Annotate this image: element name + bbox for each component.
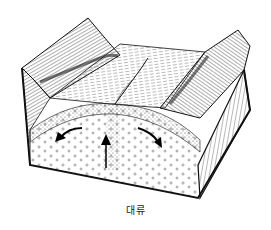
figure-caption: 대류: [0, 202, 271, 217]
convection-block-diagram: [0, 0, 271, 230]
